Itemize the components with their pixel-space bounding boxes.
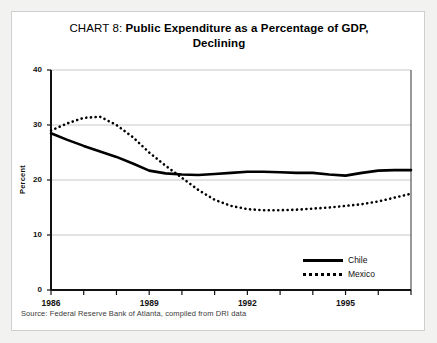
y-tick-label-30: 30 [20, 121, 42, 129]
x-tick-label-1989: 1989 [129, 299, 169, 308]
y-tick-label-20: 20 [20, 176, 42, 184]
chart-svg [12, 12, 426, 332]
x-tick-label-1995: 1995 [326, 299, 366, 308]
y-tick-label-40: 40 [20, 66, 42, 74]
legend-label-chile: Chile [344, 255, 367, 265]
legend-label-mexico: Mexico [344, 269, 375, 279]
legend-item-mexico: Mexico [300, 267, 404, 281]
series-line-chile [51, 133, 411, 175]
series-line-mexico [51, 117, 411, 211]
legend-key-dotted-icon [300, 268, 344, 280]
source-note: Source: Federal Reserve Bank of Atlanta,… [21, 309, 246, 318]
legend-item-chile: Chile [300, 253, 404, 267]
chart-card: CHART 8: Public Expenditure as a Percent… [11, 11, 425, 331]
chart-legend: Chile Mexico [300, 253, 404, 281]
legend-key-solid-icon [300, 254, 344, 266]
y-tick-label-10: 10 [20, 231, 42, 239]
x-tick-label-1992: 1992 [227, 299, 267, 308]
plot-area: Percent 0102030401986198919921995 [12, 12, 426, 332]
y-tick-label-0: 0 [20, 286, 42, 294]
x-tick-label-1986: 1986 [31, 299, 71, 308]
